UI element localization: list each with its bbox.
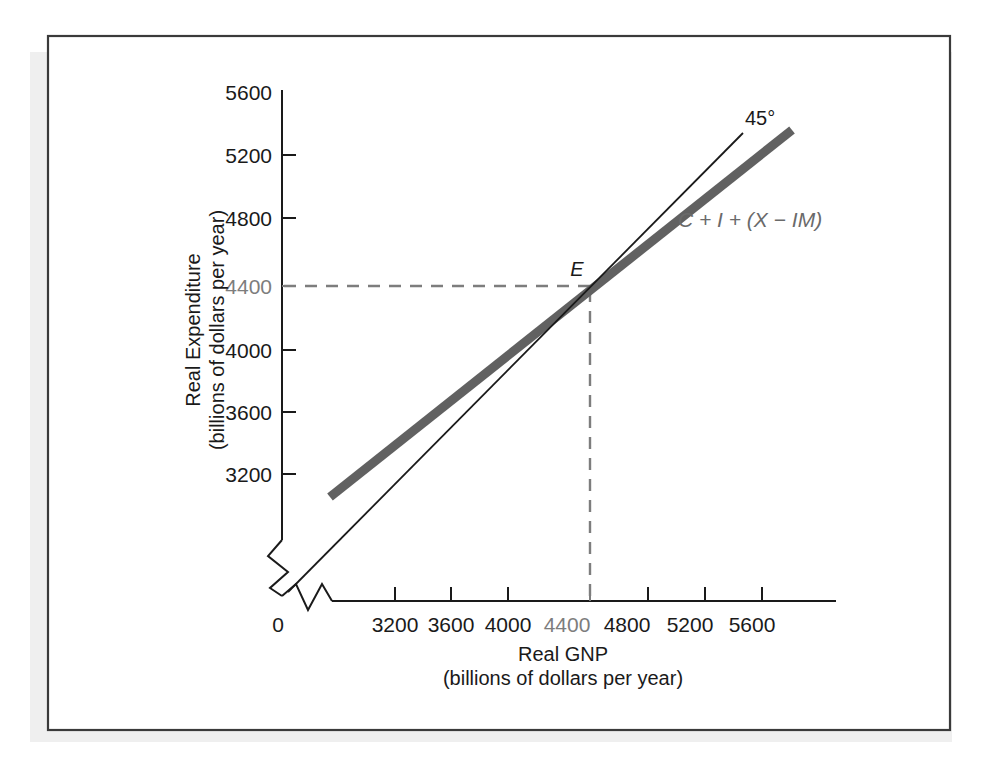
y-tick-label-3200: 3200	[225, 463, 272, 486]
equilibrium-point-label: E	[570, 258, 584, 280]
figure-root: 5600 5200 4800 4400 4000 3600 3200 0 320…	[0, 0, 997, 769]
y-tick-label-4000: 4000	[225, 339, 272, 362]
x-tick-label-4800: 4800	[604, 613, 651, 636]
y-tick-label-4400: 4400	[225, 275, 272, 298]
y-tick-label-4800: 4800	[225, 207, 272, 230]
x-tick-label-5200: 5200	[667, 613, 714, 636]
x-origin-label: 0	[272, 613, 284, 636]
x-tick-label-4400: 4400	[544, 613, 591, 636]
y-tick-label-3600: 3600	[225, 401, 272, 424]
x-tick-label-3200: 3200	[372, 613, 419, 636]
x-tick-label-5600: 5600	[729, 613, 776, 636]
chart-canvas: 5600 5200 4800 4400 4000 3600 3200 0 320…	[0, 0, 997, 769]
expenditure-curve-label: C + I + (X − IM)	[678, 208, 822, 231]
x-axis-subtitle: (billions of dollars per year)	[443, 667, 683, 689]
y-tick-label-5200: 5200	[225, 144, 272, 167]
x-tick-label-3600: 3600	[428, 613, 475, 636]
forty-five-degree-label: 45°	[745, 107, 775, 129]
y-axis-title: Real Expenditure	[182, 253, 204, 406]
y-tick-label-5600: 5600	[225, 81, 272, 104]
y-axis-subtitle: (billions of dollars per year)	[206, 210, 228, 450]
x-tick-label-4000: 4000	[485, 613, 532, 636]
x-axis-title: Real GNP	[518, 643, 608, 665]
